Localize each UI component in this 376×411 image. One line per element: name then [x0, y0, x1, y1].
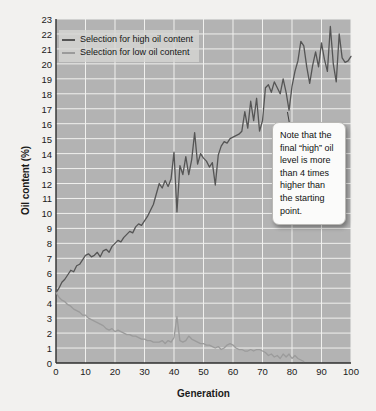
x-axis-title: Generation [56, 388, 351, 399]
y-tick-label: 9 [28, 223, 52, 234]
x-tick-label: 70 [248, 366, 278, 377]
legend-item-low: Selection for low oil content [62, 46, 193, 59]
y-tick-label: 7 [28, 253, 52, 264]
y-tick-label: 17 [28, 103, 52, 114]
legend-swatch-low-icon [62, 52, 75, 54]
x-tick-label: 80 [277, 366, 307, 377]
y-tick-label: 4 [28, 298, 52, 309]
y-tick-label: 11 [28, 193, 52, 204]
x-tick-label: 100 [336, 366, 366, 377]
y-tick-label: 6 [28, 268, 52, 279]
y-tick-label: 8 [28, 238, 52, 249]
y-tick-label: 5 [28, 283, 52, 294]
x-tick-label: 0 [41, 366, 71, 377]
y-tick-label: 10 [28, 208, 52, 219]
y-tick-label: 19 [28, 73, 52, 84]
x-tick-label: 90 [307, 366, 337, 377]
y-tick-label: 18 [28, 88, 52, 99]
legend-label-high: Selection for high oil content [80, 33, 193, 46]
y-axis-title: Oil content (%) [20, 101, 31, 261]
y-tick-label: 2 [28, 328, 52, 339]
y-tick-label: 1 [28, 343, 52, 354]
y-tick-label: 14 [28, 148, 52, 159]
y-tick-label: 12 [28, 178, 52, 189]
x-tick-label: 60 [218, 366, 248, 377]
x-tick-label: 10 [71, 366, 101, 377]
x-tick-label: 40 [159, 366, 189, 377]
chart-annotation-callout: Note that the final “high” oil level is … [272, 122, 346, 225]
x-tick-label: 20 [100, 366, 130, 377]
y-tick-label: 21 [28, 43, 52, 54]
y-tick-label: 23 [28, 14, 52, 25]
legend-label-low: Selection for low oil content [80, 46, 190, 59]
legend-swatch-high-icon [62, 39, 75, 41]
x-tick-label: 30 [130, 366, 160, 377]
y-tick-label: 13 [28, 163, 52, 174]
chart-legend: Selection for high oil content Selection… [59, 30, 199, 62]
x-tick-label: 50 [189, 366, 219, 377]
y-tick-label: 15 [28, 133, 52, 144]
legend-item-high: Selection for high oil content [62, 33, 193, 46]
y-tick-label: 3 [28, 313, 52, 324]
y-tick-label: 16 [28, 118, 52, 129]
y-tick-label: 22 [28, 28, 52, 39]
y-tick-label: 20 [28, 58, 52, 69]
chart-figure: 01234567891011121314151617181920212223 0… [0, 0, 376, 411]
